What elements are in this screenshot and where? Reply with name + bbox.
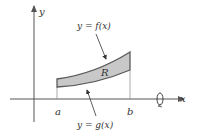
- y-axis-label: y: [38, 6, 45, 17]
- upper-curve-label: y = f(x): [76, 21, 111, 31]
- rotation-arrow-icon: [157, 93, 163, 107]
- x-axis-label: x: [180, 93, 186, 104]
- upper-curve-pointer-arrow: [96, 34, 106, 59]
- bound-label-a: a: [55, 106, 61, 117]
- lower-curve-pointer-arrow: [87, 90, 96, 116]
- lower-curve-label: y = g(x): [76, 120, 114, 130]
- region-label: R: [100, 67, 109, 78]
- region-r: [57, 52, 130, 87]
- bound-label-b: b: [127, 106, 133, 117]
- volume-of-revolution-diagram: y x R a b y = f(x) y = g(x): [0, 0, 197, 136]
